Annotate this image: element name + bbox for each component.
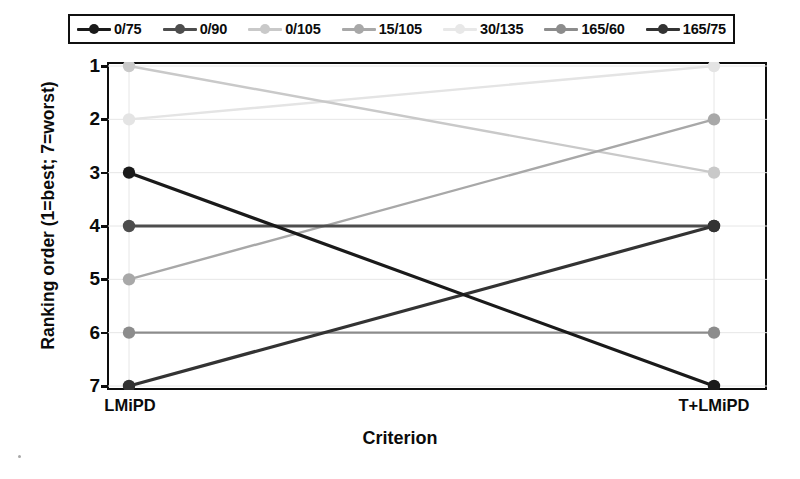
series-line — [129, 119, 714, 279]
data-point — [708, 166, 720, 178]
legend-item[interactable]: 0/90 — [162, 21, 228, 37]
y-tick-label: 1 — [74, 55, 100, 77]
legend-label: 0/105 — [285, 21, 320, 37]
legend-marker-icon — [163, 22, 197, 36]
data-point — [123, 380, 135, 390]
y-tick-mark — [101, 172, 108, 175]
legend-label: 30/135 — [480, 21, 523, 37]
series-line — [129, 66, 714, 119]
data-point — [123, 220, 135, 232]
data-point — [708, 380, 720, 390]
data-point — [123, 113, 135, 125]
y-tick-label: 7 — [74, 375, 100, 397]
scan-speck — [18, 455, 21, 458]
chart-legend: 0/750/900/10515/10530/135165/60165/75 — [68, 14, 735, 44]
legend-label: 165/60 — [581, 21, 624, 37]
y-tick-mark — [101, 118, 108, 121]
y-axis-title: Ranking order (1=best; 7=worst) — [38, 51, 59, 381]
legend-marker-icon — [646, 22, 680, 36]
legend-marker-icon — [443, 22, 477, 36]
x-tick-label-t-lmipd: T+LMiPD — [678, 396, 749, 415]
data-point — [123, 326, 135, 338]
legend-label: 0/75 — [114, 21, 141, 37]
data-point — [708, 113, 720, 125]
legend-item[interactable]: 165/60 — [543, 21, 625, 37]
x-tick-label-lmipd: LMiPD — [104, 396, 155, 415]
plot-lines — [107, 62, 767, 390]
legend-marker-icon — [544, 22, 578, 36]
data-point — [708, 62, 720, 72]
data-point — [708, 220, 720, 232]
y-tick-mark — [101, 278, 108, 281]
chart-container: 0/750/900/10515/10530/135165/60165/75 12… — [0, 0, 800, 479]
x-axis-title: Criterion — [0, 428, 800, 449]
legend-label: 165/75 — [683, 21, 726, 37]
y-tick-mark — [101, 225, 108, 228]
data-point — [708, 326, 720, 338]
legend-marker-icon — [248, 22, 282, 36]
legend-label: 0/90 — [200, 21, 227, 37]
legend-marker-icon — [77, 22, 111, 36]
data-point — [123, 166, 135, 178]
y-tick-label: 6 — [74, 322, 100, 344]
legend-marker-icon — [342, 22, 376, 36]
data-point — [123, 62, 135, 72]
data-point — [123, 273, 135, 285]
legend-item[interactable]: 165/75 — [645, 21, 727, 37]
y-tick-label: 4 — [74, 215, 100, 237]
y-tick-label: 5 — [74, 268, 100, 290]
series-line — [129, 226, 714, 386]
legend-item[interactable]: 15/105 — [341, 21, 423, 37]
legend-item[interactable]: 0/75 — [76, 21, 142, 37]
legend-item[interactable]: 0/105 — [247, 21, 321, 37]
y-tick-mark — [101, 332, 108, 335]
y-tick-mark — [101, 385, 108, 388]
legend-label: 15/105 — [379, 21, 422, 37]
y-tick-mark — [101, 65, 108, 68]
y-axis-ticks: 1234567 — [66, 62, 100, 390]
legend-item[interactable]: 30/135 — [442, 21, 524, 37]
y-tick-label: 3 — [74, 162, 100, 184]
y-tick-label: 2 — [74, 108, 100, 130]
